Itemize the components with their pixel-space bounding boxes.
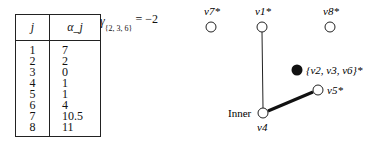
- node-v1: [257, 22, 267, 32]
- node-v4: [258, 108, 268, 118]
- edge-v4-v5: [268, 92, 313, 111]
- label-v5: v5*: [327, 84, 343, 96]
- label-v2-v3-v6: {v2, v3, v6}*: [306, 64, 363, 76]
- edge-v1-v4: [262, 32, 263, 108]
- label-v7: v7*: [204, 5, 220, 17]
- graph: v7* v1* v8* {v2, v3, v6}* v5* v4 Inner: [0, 0, 378, 150]
- label-v1: v1*: [255, 5, 271, 17]
- label-v8: v8*: [323, 5, 339, 17]
- node-v2-v3-v6: [292, 65, 303, 76]
- label-inner: Inner: [228, 107, 252, 119]
- label-v4: v4: [257, 121, 268, 133]
- node-v5: [313, 85, 323, 95]
- node-v8: [325, 22, 335, 32]
- node-v7: [206, 22, 216, 32]
